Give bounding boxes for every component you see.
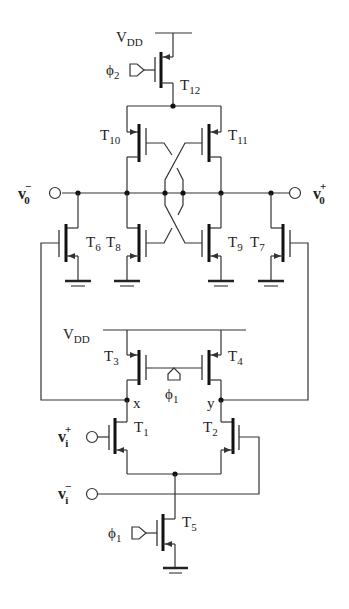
clock-phi2-input-icon bbox=[130, 64, 144, 76]
phi1-label-tail: ϕ1 bbox=[108, 525, 121, 544]
transistor-t6 bbox=[41, 193, 127, 400]
phi2-label: ϕ2 bbox=[106, 62, 119, 81]
t9-label: T9 bbox=[228, 234, 243, 253]
node-x-label: x bbox=[133, 395, 141, 411]
clock-phi1-input-icon-tail bbox=[132, 527, 146, 539]
transistor-t8 bbox=[127, 193, 146, 281]
vi-plus-label: v+i bbox=[58, 423, 71, 449]
vi-minus-terminal[interactable] bbox=[87, 489, 98, 500]
transistor-t12 bbox=[144, 52, 173, 106]
transistor-t2 bbox=[98, 400, 259, 494]
ground-icon-t8 bbox=[114, 281, 140, 286]
vo-plus-label: v+0 bbox=[313, 180, 326, 206]
transistor-t1 bbox=[98, 400, 127, 474]
transistor-t7 bbox=[221, 193, 308, 400]
vi-plus-terminal[interactable] bbox=[87, 432, 98, 443]
t3-label: T3 bbox=[104, 348, 119, 367]
transistor-t4 bbox=[202, 330, 221, 400]
vo-plus-terminal[interactable] bbox=[290, 188, 301, 199]
ground-icon-t9 bbox=[208, 281, 234, 286]
node-y-label: y bbox=[207, 395, 215, 411]
ground-icon-t6 bbox=[65, 281, 91, 286]
t5-label: T5 bbox=[182, 514, 197, 533]
ground-icon-t7 bbox=[258, 281, 284, 286]
vi-minus-label: v−i bbox=[58, 480, 71, 506]
transistor-t10 bbox=[127, 106, 146, 193]
node-cross-left bbox=[162, 190, 167, 195]
t7-label: T7 bbox=[250, 234, 265, 253]
t4-label: T4 bbox=[228, 348, 243, 367]
t11-label: T11 bbox=[228, 127, 248, 146]
transistor-t5 bbox=[146, 474, 175, 568]
t12-label: T12 bbox=[180, 77, 200, 96]
transistor-t9 bbox=[202, 193, 221, 281]
vdd-label-bottom: VDD bbox=[63, 326, 90, 345]
transistor-t3 bbox=[127, 330, 146, 400]
transistor-t11 bbox=[202, 106, 221, 193]
t2-label: T2 bbox=[203, 419, 218, 438]
t10-label: T10 bbox=[100, 127, 121, 146]
vo-minus-terminal[interactable] bbox=[50, 188, 61, 199]
clock-phi1-input-icon-preamp bbox=[168, 368, 180, 380]
vo-minus-label: v−0 bbox=[18, 180, 31, 206]
circuit-schematic: VDD ϕ2 T12 T10 T11 bbox=[0, 0, 349, 609]
node-cross-right bbox=[180, 190, 185, 195]
t1-label: T1 bbox=[134, 419, 149, 438]
vdd-label-top: VDD bbox=[116, 29, 143, 48]
ground-icon-t5 bbox=[163, 568, 188, 573]
vdd-rail-top bbox=[155, 33, 192, 55]
node-t12-drain bbox=[170, 103, 175, 108]
t8-label: T8 bbox=[106, 234, 121, 253]
t6-label: T6 bbox=[86, 234, 101, 253]
phi1-label-preamp: ϕ1 bbox=[165, 386, 178, 405]
